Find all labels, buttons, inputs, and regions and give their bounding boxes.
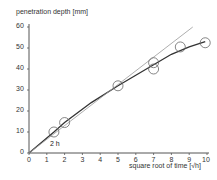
x-tick-label: 0 — [27, 156, 31, 163]
x-tick-label: 4 — [98, 156, 102, 163]
x-tick-label: 6 — [134, 156, 138, 163]
x-tick-label: 7 — [152, 156, 156, 163]
x-tick-label: 2 — [63, 156, 67, 163]
x-tick-label: 8 — [169, 156, 173, 163]
y-tick-label: 0 — [20, 148, 24, 155]
x-tick-label: 9 — [187, 156, 191, 163]
y-tick-label: 40 — [16, 64, 24, 71]
x-tick-label: 5 — [116, 156, 120, 163]
annotation-2h: 2 h — [50, 140, 60, 147]
fitted-curve-line — [29, 42, 205, 153]
x-tick-label: 1 — [45, 156, 49, 163]
y-tick-label: 30 — [16, 85, 24, 92]
chart-plot-area — [0, 0, 217, 180]
x-tick-label: 3 — [80, 156, 84, 163]
x-tick-label: 10 — [202, 156, 210, 163]
y-tick-label: 20 — [16, 106, 24, 113]
y-tick-label: 60 — [16, 22, 24, 29]
linear-reference-line — [29, 27, 193, 153]
y-tick-label: 50 — [16, 43, 24, 50]
y-tick-label: 10 — [16, 127, 24, 134]
